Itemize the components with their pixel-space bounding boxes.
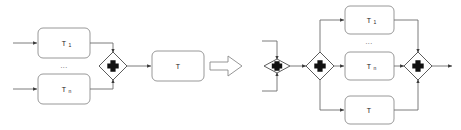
task-label-t-base: T xyxy=(176,63,181,70)
left-gateway-join[interactable] xyxy=(99,52,127,80)
right-flow-t1-to-merge xyxy=(394,20,418,53)
task-label-tn-base: T xyxy=(367,63,372,70)
task-label-t1-base: T xyxy=(62,40,67,47)
right-pattern-group: T 1 ... T n T xyxy=(262,6,452,124)
left-flow-tn-to-join xyxy=(90,80,113,90)
right-flow-split-to-t1 xyxy=(320,20,344,52)
implies-arrow-shape xyxy=(210,56,242,76)
left-ellipsis: ... xyxy=(60,62,67,69)
task-label-t1-base: T xyxy=(367,17,372,24)
diagram-canvas: T 1 ... T n xyxy=(0,0,461,130)
left-pattern-group: T 1 ... T n xyxy=(13,28,204,104)
task-label-tn-base: T xyxy=(62,86,67,93)
right-task-t1[interactable]: T 1 xyxy=(345,6,394,34)
transformation-rule-diagram: T 1 ... T n xyxy=(0,0,461,130)
right-ellipsis: ... xyxy=(365,38,372,45)
right-input-flow-top xyxy=(262,41,277,60)
right-flow-split-to-t xyxy=(320,80,344,110)
implies-arrow-icon xyxy=(210,56,242,76)
right-gateway-split[interactable] xyxy=(306,52,334,80)
left-task-tn[interactable]: T n xyxy=(38,74,90,104)
right-task-tn[interactable]: T n xyxy=(345,52,394,80)
task-label-t1-subscript: 1 xyxy=(374,19,377,25)
left-flow-t1-to-join xyxy=(90,43,113,53)
task-label-tn-subscript: n xyxy=(69,88,72,94)
left-task-t1[interactable]: T 1 xyxy=(38,28,90,58)
task-label-tn-subscript: n xyxy=(374,65,377,71)
right-input-flow-bottom xyxy=(262,73,277,92)
right-gateway-join[interactable] xyxy=(264,59,290,73)
left-task-t[interactable]: T xyxy=(152,51,204,81)
right-flow-t-to-merge xyxy=(394,80,418,111)
task-label-t-base: T xyxy=(367,107,372,114)
right-task-t[interactable]: T xyxy=(345,96,394,124)
task-label-t1-subscript: 1 xyxy=(69,42,72,48)
right-gateway-merge[interactable] xyxy=(404,52,432,80)
